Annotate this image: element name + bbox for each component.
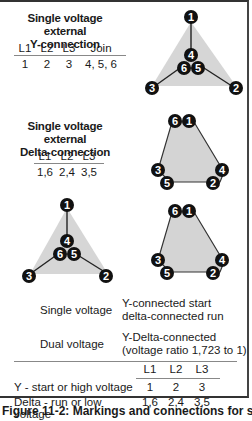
svg-text:5: 5: [71, 248, 77, 260]
svg-text:3: 3: [155, 164, 161, 176]
value-cell: 2: [36, 58, 58, 70]
y-connection-diagram-2: 1 4 6 5 3 2: [10, 192, 125, 287]
svg-text:6: 6: [181, 62, 187, 74]
value-cell: 1: [137, 381, 163, 396]
desc-line: Y-Delta-connected: [122, 331, 247, 344]
svg-text:4: 4: [64, 235, 71, 247]
value-cell: 1: [14, 58, 36, 70]
svg-text:4: 4: [219, 254, 226, 266]
figure-caption: Figure 11-2: Markings and connections fo…: [2, 404, 252, 418]
header-cell: L2: [163, 363, 189, 378]
header-cell: L2: [56, 150, 78, 162]
desc-line: (voltage ratio 1,723 to 1): [122, 344, 247, 357]
divider: [14, 361, 237, 362]
svg-text:3: 3: [26, 270, 32, 282]
header-cell: L1: [14, 42, 36, 54]
delta-connection-table: L1 L2 L3 1,6 2,4 3,5: [34, 150, 104, 178]
title-line: Single voltage external: [6, 12, 124, 38]
y-connection-table: L1 L2 L3 Join 1 2 3 4, 5, 6: [14, 42, 126, 70]
header-divider: [136, 378, 220, 379]
desc-line: delta-connected run: [122, 310, 224, 323]
y-connection-diagram: 1 4 6 5 3 2: [140, 8, 252, 98]
table-header: L1 L2 L3 Join: [14, 42, 126, 56]
table-header: L1 L2 L3: [14, 363, 239, 378]
table-row: Y - start or high voltage 1 2 3: [14, 381, 239, 396]
value-cell: 3: [58, 58, 80, 70]
triangle-shape: [158, 212, 224, 272]
svg-text:1: 1: [186, 205, 192, 217]
header-cell: Join: [80, 42, 122, 54]
svg-text:2: 2: [233, 82, 239, 94]
title-line: Single voltage external: [6, 120, 124, 146]
header-cell: L2: [36, 42, 58, 54]
header-cell: L3: [78, 150, 100, 162]
delta-connection-diagram: 6 1 3 5 4 2: [150, 112, 240, 192]
svg-text:4: 4: [219, 164, 226, 176]
desc-line: Y-connected start: [122, 297, 224, 310]
svg-text:6: 6: [172, 115, 178, 127]
header-cell: L3: [189, 363, 215, 378]
value-cell: 2,4: [56, 166, 78, 178]
single-voltage-description: Y-connected start delta-connected run: [122, 297, 224, 323]
delta-connection-diagram-2: 6 1 3 5 4 2: [150, 202, 240, 282]
svg-text:1: 1: [64, 199, 70, 211]
dual-voltage-label: Dual voltage: [40, 338, 104, 351]
header-cell: L1: [137, 363, 163, 378]
svg-text:1: 1: [186, 115, 192, 127]
svg-text:3: 3: [149, 82, 155, 94]
svg-text:1: 1: [188, 11, 194, 23]
table-row: 1,6 2,4 3,5: [34, 166, 104, 178]
value-cell: 3: [189, 381, 215, 396]
value-cell: 2: [163, 381, 189, 396]
single-voltage-label: Single voltage: [40, 304, 112, 317]
svg-text:6: 6: [57, 248, 63, 260]
svg-text:5: 5: [164, 177, 170, 189]
svg-text:5: 5: [195, 62, 201, 74]
svg-text:3: 3: [155, 254, 161, 266]
svg-text:4: 4: [188, 49, 195, 61]
value-cell: 4, 5, 6: [80, 58, 122, 70]
dual-voltage-description: Y-Delta-connected (voltage ratio 1,723 t…: [122, 331, 247, 357]
table-header: L1 L2 L3: [34, 150, 104, 164]
svg-text:2: 2: [210, 267, 216, 279]
spacer: [14, 363, 137, 378]
svg-text:2: 2: [103, 270, 109, 282]
row-label: Y - start or high voltage: [14, 381, 137, 396]
header-cell: L1: [34, 150, 56, 162]
value-cell: 1,6: [34, 166, 56, 178]
header-cell: L3: [58, 42, 80, 54]
svg-text:2: 2: [210, 177, 216, 189]
svg-text:6: 6: [172, 205, 178, 217]
table-row: 1 2 3 4, 5, 6: [14, 58, 126, 70]
svg-text:5: 5: [164, 267, 170, 279]
value-cell: 3,5: [78, 166, 100, 178]
